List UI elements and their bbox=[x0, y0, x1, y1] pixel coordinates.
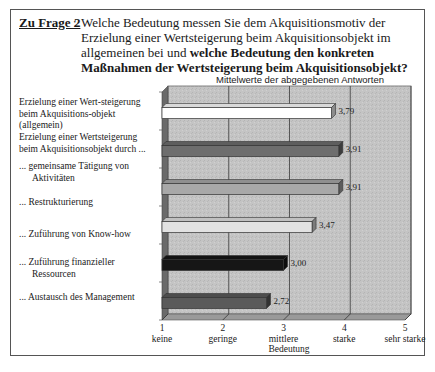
bar bbox=[162, 222, 312, 233]
plot-side-wall bbox=[162, 86, 168, 320]
bar-top-face bbox=[162, 104, 335, 108]
x-tick-number: 5 bbox=[403, 323, 408, 333]
bar-top-face bbox=[162, 218, 316, 222]
bar-chart: 3,793,913,913,473,002,72 1keine2geringe3… bbox=[0, 0, 435, 372]
x-tick-label: geringe bbox=[209, 334, 238, 344]
x-tick-label: mittlere bbox=[269, 334, 299, 344]
x-tick-number: 4 bbox=[342, 323, 347, 333]
x-tick-number: 1 bbox=[160, 323, 165, 333]
bar bbox=[162, 108, 331, 119]
bar bbox=[162, 298, 266, 309]
data-label: 3,47 bbox=[319, 220, 335, 230]
bar-top-face bbox=[162, 142, 343, 146]
bar bbox=[162, 184, 339, 195]
data-label: 3,79 bbox=[338, 106, 354, 116]
bar-top-face bbox=[162, 180, 343, 184]
data-label: 3,91 bbox=[346, 182, 362, 192]
x-axis-title: Bedeutung bbox=[268, 344, 309, 354]
data-label: 2,72 bbox=[273, 296, 289, 306]
data-label: 3,00 bbox=[291, 258, 307, 268]
x-tick-label: keine bbox=[152, 334, 173, 344]
bar-top-face bbox=[162, 294, 270, 298]
bar bbox=[162, 260, 284, 271]
x-tick-label: sehr starke bbox=[385, 334, 426, 344]
x-tick-number: 2 bbox=[220, 323, 225, 333]
data-label: 3,91 bbox=[346, 144, 362, 154]
x-tick-number: 3 bbox=[281, 323, 286, 333]
x-tick-label: starke bbox=[333, 334, 356, 344]
bar bbox=[162, 146, 339, 157]
bar-top-face bbox=[162, 256, 288, 260]
